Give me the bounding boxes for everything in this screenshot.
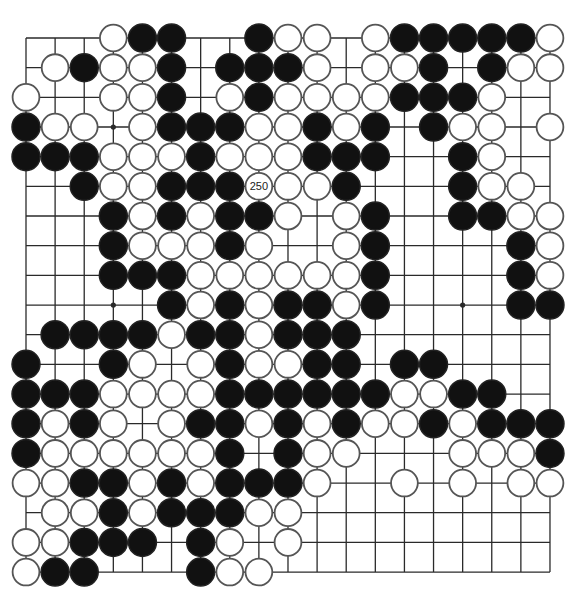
white-stone	[245, 559, 272, 586]
black-stone	[41, 321, 69, 349]
black-stone	[216, 202, 244, 230]
white-stone	[275, 262, 302, 289]
black-stone	[332, 143, 360, 171]
white-stone	[129, 173, 156, 200]
black-stone	[216, 113, 244, 141]
black-stone	[303, 143, 331, 171]
white-stone	[362, 84, 389, 111]
white-stone	[129, 440, 156, 467]
white-stone	[507, 173, 534, 200]
black-stone	[187, 143, 215, 171]
black-stone	[128, 24, 156, 52]
numbered-stone: 250	[245, 173, 272, 200]
black-stone	[245, 54, 273, 82]
white-stone	[100, 173, 127, 200]
black-stone	[99, 499, 127, 527]
white-stone	[275, 25, 302, 52]
black-stone	[507, 410, 535, 438]
white-stone	[391, 381, 418, 408]
white-stone	[42, 440, 69, 467]
white-stone	[100, 381, 127, 408]
black-stone	[361, 113, 389, 141]
white-stone	[507, 470, 534, 497]
black-stone	[158, 291, 186, 319]
white-stone	[129, 54, 156, 81]
white-stone	[275, 203, 302, 230]
black-stone	[99, 261, 127, 289]
white-stone	[333, 203, 360, 230]
black-stone	[420, 54, 448, 82]
black-stone	[332, 321, 360, 349]
white-stone	[420, 381, 447, 408]
black-stone	[274, 321, 302, 349]
white-stone	[478, 114, 505, 141]
white-stone	[449, 410, 476, 437]
white-stone	[13, 84, 40, 111]
white-stone	[304, 410, 331, 437]
black-stone	[420, 410, 448, 438]
black-stone	[361, 143, 389, 171]
black-stone	[216, 54, 244, 82]
black-stone	[216, 439, 244, 467]
black-stone	[12, 143, 40, 171]
black-stone	[187, 558, 215, 586]
black-stone	[303, 291, 331, 319]
white-stone	[304, 84, 331, 111]
black-stone	[361, 261, 389, 289]
white-stone	[304, 54, 331, 81]
white-stone	[391, 410, 418, 437]
black-stone	[216, 410, 244, 438]
star-point	[111, 124, 116, 129]
black-stone	[128, 528, 156, 556]
black-stone	[420, 24, 448, 52]
black-stone	[158, 202, 186, 230]
black-stone	[99, 528, 127, 556]
white-stone	[187, 381, 214, 408]
white-stone	[245, 499, 272, 526]
white-stone	[100, 25, 127, 52]
white-stone	[245, 262, 272, 289]
black-stone	[70, 410, 98, 438]
black-stone	[332, 410, 360, 438]
black-stone	[128, 261, 156, 289]
white-stone	[129, 381, 156, 408]
white-stone	[158, 321, 185, 348]
black-stone	[478, 410, 506, 438]
white-stone	[507, 54, 534, 81]
black-stone	[390, 350, 418, 378]
black-stone	[478, 24, 506, 52]
white-stone	[129, 232, 156, 259]
white-stone	[187, 351, 214, 378]
white-stone	[129, 470, 156, 497]
white-stone	[100, 410, 127, 437]
black-stone	[478, 202, 506, 230]
black-stone	[245, 24, 273, 52]
black-stone	[303, 113, 331, 141]
white-stone	[275, 114, 302, 141]
black-stone	[361, 202, 389, 230]
black-stone	[158, 54, 186, 82]
white-stone	[537, 25, 564, 52]
black-stone	[420, 83, 448, 111]
go-board: 250	[0, 0, 579, 601]
white-stone	[216, 559, 243, 586]
white-stone	[333, 262, 360, 289]
white-stone	[362, 25, 389, 52]
black-stone	[158, 83, 186, 111]
black-stone	[187, 321, 215, 349]
white-stone	[362, 54, 389, 81]
black-stone	[449, 202, 477, 230]
white-stone	[537, 54, 564, 81]
white-stone	[478, 84, 505, 111]
white-stone	[333, 292, 360, 319]
black-stone	[99, 321, 127, 349]
black-stone	[216, 380, 244, 408]
black-stone	[216, 499, 244, 527]
black-stone	[449, 143, 477, 171]
black-stone	[70, 143, 98, 171]
white-stone	[129, 114, 156, 141]
black-stone	[99, 202, 127, 230]
white-stone	[333, 114, 360, 141]
white-stone	[449, 440, 476, 467]
black-stone	[420, 113, 448, 141]
